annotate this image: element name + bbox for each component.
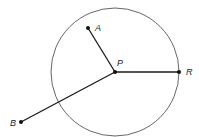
label-p: P (117, 58, 123, 68)
point-p (113, 70, 117, 74)
label-a: A (94, 23, 101, 33)
geometry-diagram: P A R B (0, 0, 199, 137)
segment-pb (21, 72, 115, 122)
label-r: R (186, 67, 193, 77)
point-a (86, 26, 90, 30)
point-r (177, 70, 181, 74)
point-b (19, 120, 23, 124)
label-b: B (10, 118, 16, 128)
segment-pa (88, 28, 115, 72)
